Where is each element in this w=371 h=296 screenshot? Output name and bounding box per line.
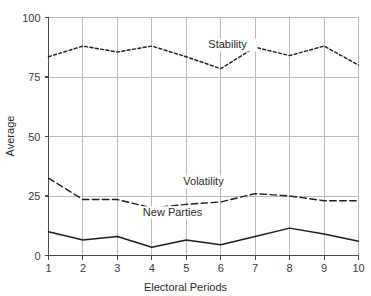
x-tick-label-3: 3 <box>114 262 120 274</box>
line-chart: 0255075100 12345678910 StabilityVolatili… <box>0 0 371 296</box>
y-tick-label-50: 50 <box>28 131 40 143</box>
tick-marks <box>45 18 359 260</box>
x-tick-label-5: 5 <box>183 262 189 274</box>
y-tick-label-25: 25 <box>28 190 40 202</box>
x-tick-label-2: 2 <box>80 262 86 274</box>
series-line-new-parties <box>49 228 359 247</box>
series-label-stability: Stability <box>208 38 247 50</box>
x-tick-label-10: 10 <box>352 262 364 274</box>
series-labels: StabilityVolatilityNew Parties <box>137 38 258 219</box>
y-tick-labels: 0255075100 <box>22 12 40 262</box>
x-tick-label-4: 4 <box>149 262 155 274</box>
y-tick-label-0: 0 <box>34 250 40 262</box>
y-axis-title: Average <box>4 116 16 157</box>
x-tick-labels: 12345678910 <box>45 262 364 274</box>
y-tick-label-75: 75 <box>28 71 40 83</box>
chart-container: 0255075100 12345678910 StabilityVolatili… <box>0 0 371 296</box>
x-tick-label-6: 6 <box>218 262 224 274</box>
x-tick-label-7: 7 <box>252 262 258 274</box>
series-label-volatility: Volatility <box>183 175 224 187</box>
series-label-new-parties: New Parties <box>143 206 203 218</box>
x-tick-label-1: 1 <box>45 262 51 274</box>
x-tick-label-8: 8 <box>287 262 293 274</box>
y-tick-label-100: 100 <box>22 12 40 24</box>
gridlines <box>49 18 359 256</box>
x-axis-title: Electoral Periods <box>144 281 228 293</box>
x-tick-label-9: 9 <box>321 262 327 274</box>
